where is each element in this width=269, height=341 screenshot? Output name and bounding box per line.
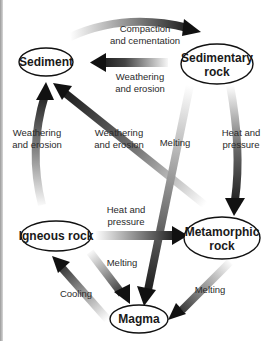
- svg-text:Metamorphic: Metamorphic: [185, 225, 260, 239]
- svg-text:Heat and: Heat and: [107, 204, 146, 215]
- svg-text:Cooling: Cooling: [60, 288, 92, 299]
- svg-text:Weathering: Weathering: [95, 127, 143, 138]
- label-metamorphic-weathering: Weathering and erosion: [94, 127, 144, 150]
- svg-text:Magma: Magma: [118, 312, 160, 326]
- arrow-igneous-to-metamorphic: [96, 226, 188, 245]
- svg-text:rock: rock: [204, 65, 230, 79]
- arrow-sedimentary-to-magma: [137, 85, 190, 306]
- svg-text:Sedimentary: Sedimentary: [181, 51, 253, 65]
- label-sedimentary-melting: Melting: [160, 137, 191, 148]
- label-igneous-heat: Heat and pressure: [107, 204, 146, 227]
- svg-text:and erosion: and erosion: [115, 83, 165, 94]
- svg-text:Weathering: Weathering: [13, 127, 61, 138]
- node-magma: Magma: [110, 305, 168, 333]
- svg-text:and cementation: and cementation: [110, 35, 180, 46]
- node-sediment: Sediment: [19, 48, 73, 76]
- svg-text:Melting: Melting: [195, 284, 226, 295]
- node-metamorphic-rock: Metamorphic rock: [184, 217, 260, 259]
- svg-text:Compaction: Compaction: [120, 23, 171, 34]
- arrow-sedimentary-to-sediment: [90, 53, 168, 72]
- label-cooling: Cooling: [60, 288, 92, 299]
- label-igneous-weathering: Weathering and erosion: [12, 127, 62, 150]
- svg-text:rock: rock: [209, 239, 235, 253]
- svg-text:Melting: Melting: [107, 257, 138, 268]
- svg-text:Heat and: Heat and: [222, 127, 261, 138]
- svg-text:pressure: pressure: [108, 216, 145, 227]
- rock-cycle-diagram: Compaction and cementation Weathering an…: [0, 0, 269, 341]
- label-igneous-melting: Melting: [107, 257, 138, 268]
- svg-text:Igneous rock: Igneous rock: [19, 229, 94, 243]
- label-sedimentary-heat: Heat and pressure: [222, 127, 261, 150]
- svg-text:and erosion: and erosion: [94, 139, 144, 150]
- arrow-sedimentary-to-metamorphic: [225, 85, 245, 216]
- label-metamorphic-melting: Melting: [195, 284, 226, 295]
- label-sedimentary-weathering: Weathering and erosion: [115, 71, 165, 94]
- node-sedimentary-rock: Sedimentary rock: [181, 44, 253, 84]
- svg-text:Weathering: Weathering: [116, 71, 164, 82]
- svg-text:pressure: pressure: [223, 139, 260, 150]
- svg-text:and erosion: and erosion: [12, 139, 62, 150]
- label-compaction: Compaction and cementation: [110, 23, 180, 46]
- svg-text:Sediment: Sediment: [19, 55, 73, 69]
- node-igneous-rock: Igneous rock: [19, 221, 94, 251]
- svg-text:Melting: Melting: [160, 137, 191, 148]
